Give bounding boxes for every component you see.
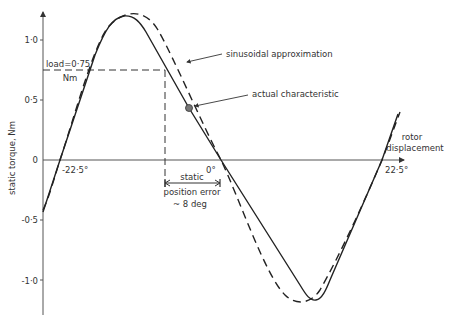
actual-annotation-arrow — [195, 95, 248, 106]
position-error-annotation: static position error ~ 8 deg — [164, 172, 221, 209]
position-error-line2: position error — [164, 187, 221, 197]
x-axis-label-line1: rotor — [402, 132, 423, 142]
x-axis-label-line2: displacement — [386, 143, 444, 153]
y-axis-label: static torque, Nm — [7, 121, 17, 195]
ytick-0.5: 0·5 — [24, 95, 38, 105]
load-label-line2: Nm — [63, 73, 78, 83]
sinusoidal-approximation-curve — [43, 14, 400, 302]
sinusoidal-annotation-arrow — [187, 54, 222, 62]
ytick-1: 1·0 — [24, 35, 38, 45]
actual-annotation-label: actual characteristic — [252, 89, 339, 99]
ytick-m0.5: -0·5 — [21, 215, 38, 225]
ytick-0: 0 — [33, 155, 38, 165]
actual-annotation-dot — [186, 105, 193, 112]
sinusoidal-annotation-label: sinusoidal approximation — [226, 49, 333, 59]
xtick-neg22.5: -22·5° — [62, 165, 88, 175]
load-label-line1: load=0·75 — [46, 59, 90, 69]
ytick-m1: -1·0 — [21, 276, 38, 286]
position-error-line3: ~ 8 deg — [173, 199, 207, 209]
position-error-line1: static — [180, 172, 204, 182]
actual-characteristic-curve — [43, 16, 398, 300]
axes: 1·0 0·5 0 -0·5 -1·0 -22·5° 0° 22·5° — [21, 12, 408, 315]
xtick-22.5: 22·5° — [385, 165, 408, 175]
xtick-0: 0° — [206, 165, 216, 175]
torque-chart: 1·0 0·5 0 -0·5 -1·0 -22·5° 0° 22·5° stat… — [0, 0, 458, 317]
